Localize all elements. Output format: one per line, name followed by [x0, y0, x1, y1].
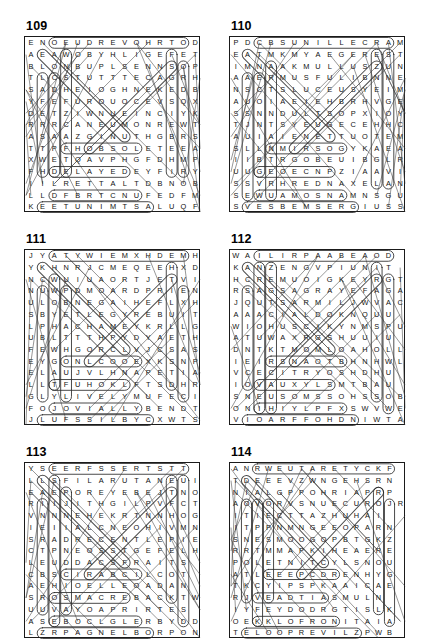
grid-cell: A [60, 604, 72, 616]
grid-cell: R [373, 545, 384, 557]
grid-cell: L [340, 627, 351, 639]
grid-cell: I [241, 486, 252, 498]
letter-grid[interactable]: PDCBSUNILLECRAMEATMKMYAEGERESTIMNAAKMULL… [229, 36, 405, 212]
grid-cell: Y [312, 367, 324, 379]
grid-cell: G [329, 604, 340, 616]
grid-cell: L [274, 616, 285, 628]
grid-cell: W [84, 250, 96, 262]
grid-cell: N [166, 403, 178, 415]
grid-cell: D [166, 379, 178, 391]
grid-cell: C [154, 344, 166, 356]
grid-cell: T [340, 463, 351, 475]
letter-grid[interactable]: YSEERFSSERTSTTLLSFILARUTANEUIEAEPOREYEBE… [24, 462, 200, 638]
grid-cell: E [289, 166, 301, 178]
grid-cell: H [265, 320, 277, 332]
grid-cell [384, 592, 395, 604]
grid-cell: O [37, 403, 49, 415]
grid-cell: R [265, 72, 277, 84]
grid-cell: I [347, 154, 359, 166]
grid-cell [395, 592, 406, 604]
grid-cell: G [265, 285, 277, 297]
grid-cell: L [60, 391, 72, 403]
grid-cell: Y [274, 604, 285, 616]
grid-cell: R [300, 297, 312, 309]
grid-cell: O [340, 522, 351, 534]
grid-cell: U [300, 84, 312, 96]
grid-cell: V [285, 475, 296, 487]
grid-cell: F [296, 616, 307, 628]
grid-cell: Y [289, 119, 301, 131]
grid-cell: T [142, 379, 154, 391]
grid-cell: M [394, 37, 406, 49]
grid-cell: B [189, 178, 201, 190]
grid-cell: V [178, 273, 190, 285]
grid-cell: W [307, 475, 318, 487]
grid-cell: D [131, 332, 143, 344]
grid-cell: N [142, 107, 154, 119]
grid-cell: K [37, 262, 49, 274]
grid-cell: C [95, 533, 107, 545]
grid-cell: V [84, 391, 96, 403]
grid-cell: Z [371, 60, 383, 72]
grid-cell: L [394, 356, 406, 368]
grid-cell: H [142, 522, 154, 534]
grid-cell: P [189, 154, 201, 166]
grid-cell: I [371, 107, 383, 119]
grid-cell: W [371, 414, 383, 426]
grid-cell: A [230, 332, 242, 344]
grid-cell: M [107, 262, 119, 274]
letter-grid[interactable]: WAILIRPAABEAODKANZENGVPIUNITHCREMUOIGKEY… [229, 249, 405, 425]
grid-cell: I [72, 273, 84, 285]
grid-cell: O [242, 379, 254, 391]
grid-cell: F [60, 414, 72, 426]
grid-cell: T [166, 273, 178, 285]
grid-cell: T [371, 131, 383, 143]
grid-cell: V [371, 403, 383, 415]
grid-cell: N [107, 522, 119, 534]
grid-cell: R [300, 332, 312, 344]
grid-cell: A [265, 131, 277, 143]
grid-cell: J [241, 592, 252, 604]
grid-cell: T [265, 119, 277, 131]
grid-cell: Y [359, 84, 371, 96]
grid-cell: F [384, 463, 395, 475]
grid-cell: K [336, 273, 348, 285]
grid-cell: I [48, 498, 60, 510]
letter-grid[interactable]: JYATYWIEMXHDEMHYKHNRJCMEQEEHXDNCWUIUAORT… [24, 249, 200, 425]
grid-cell: C [154, 569, 166, 581]
grid-cell: S [95, 545, 107, 557]
grid-cell: I [359, 201, 371, 213]
grid-cell: R [289, 250, 301, 262]
letter-grid[interactable]: ENOEUDREVOHRTODAEAWOBYHLIGEFETBLONBUPLSE… [24, 36, 200, 212]
grid-cell: T [37, 143, 49, 155]
grid-cell: Q [359, 309, 371, 321]
grid-cell: T [131, 178, 143, 190]
grid-cell: I [277, 250, 289, 262]
grid-cell: V [252, 592, 263, 604]
grid-cell: I [37, 178, 49, 190]
grid-cell: E [324, 201, 336, 213]
grid-cell: V [383, 166, 395, 178]
grid-cell: H [48, 320, 60, 332]
grid-cell: E [347, 49, 359, 61]
grid-cell: N [371, 72, 383, 84]
grid-cell: H [84, 379, 96, 391]
grid-cell: A [154, 72, 166, 84]
grid-cell: B [340, 533, 351, 545]
grid-cell: M [394, 131, 406, 143]
grid-cell: A [95, 320, 107, 332]
grid-cell: C [107, 190, 119, 202]
puzzle-number-label: 113 [26, 445, 200, 459]
grid-cell: U [48, 557, 60, 569]
grid-cell: V [72, 403, 84, 415]
grid-cell: I [336, 262, 348, 274]
grid-cell: E [265, 273, 277, 285]
grid-cell: I [265, 96, 277, 108]
grid-cell: F [166, 49, 178, 61]
grid-cell: I [154, 557, 166, 569]
grid-cell: N [25, 285, 37, 297]
letter-grid[interactable]: ANRWEUTARETYCKFTDEEEVZWNGEHSRNNIALGPPOHR… [229, 462, 405, 638]
grid-cell: P [263, 522, 274, 534]
grid-cell: E [347, 285, 359, 297]
grid-cell: I [154, 522, 166, 534]
